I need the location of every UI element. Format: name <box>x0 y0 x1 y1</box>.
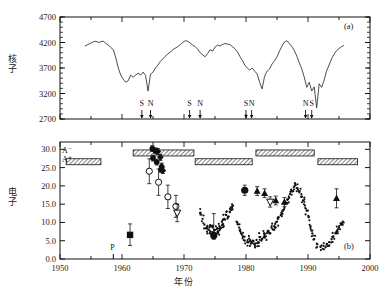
marker-dot-small <box>307 210 309 212</box>
marker-dot-small <box>331 236 333 238</box>
marker-dot-small <box>303 203 305 205</box>
marker-dot-small <box>294 185 296 187</box>
marker-dot-small <box>311 232 313 234</box>
marker-dot-small <box>232 208 234 210</box>
x-tick-label: 1970 <box>164 263 204 273</box>
marker-dot-small <box>273 229 275 231</box>
marker-dot-small <box>277 225 279 227</box>
marker-dot-small <box>288 201 290 203</box>
panel-b-ytick-label: 15.0 <box>22 199 56 209</box>
marker-dot-small <box>229 210 231 212</box>
panel-a-label: (a) <box>344 21 353 31</box>
marker-dot-small <box>299 190 301 192</box>
marker-dot-small <box>246 239 248 241</box>
marker-dot-small <box>226 210 228 212</box>
marker-dot-small <box>271 225 273 227</box>
marker-dot-small <box>222 218 224 220</box>
marker-dot-small <box>288 195 290 197</box>
marker-dot-small <box>316 246 318 248</box>
panel-a-ytick-label: 4200 <box>22 38 56 48</box>
marker-dot-small <box>215 225 217 227</box>
marker-dot-small <box>214 236 216 238</box>
epoch-bar-a-plus <box>195 159 252 165</box>
marker-dot-small <box>330 241 332 243</box>
marker-dot-small <box>201 218 203 220</box>
marker-dot-small <box>213 229 215 231</box>
reversal-marker-label-n: N <box>144 99 158 108</box>
marker-dot-small <box>322 245 324 247</box>
marker-dot-small <box>249 245 251 247</box>
marker-dot-small <box>305 213 307 215</box>
marker-dot-small <box>301 196 303 198</box>
panel-a-ytick-label: 4700 <box>22 12 56 22</box>
x-axis-title: 年份 <box>154 275 214 288</box>
marker-dot-small <box>199 208 201 210</box>
marker-dot-small <box>326 243 328 245</box>
marker-triangle-down-open <box>174 210 181 217</box>
panel-a-frame <box>60 17 370 119</box>
marker-dot-small <box>336 226 338 228</box>
marker-dot-small <box>251 242 253 244</box>
marker-triangle-up-filled <box>261 189 268 196</box>
panel-b-ytick-label: 20.0 <box>22 181 56 191</box>
marker-circle-filled-large <box>241 187 248 194</box>
panel-b-label: (b) <box>344 241 354 251</box>
marker-square-filled <box>127 232 133 238</box>
marker-dot-small <box>320 246 322 248</box>
marker-dot-small <box>239 223 241 225</box>
x-tick-label: 1990 <box>288 263 328 273</box>
marker-dot-small <box>316 243 318 245</box>
marker-dot-small <box>218 223 220 225</box>
reversal-arrow-head <box>140 115 144 119</box>
reversal-arrow-head <box>304 115 308 119</box>
x-tick-label: 1960 <box>102 263 142 273</box>
marker-dot-small <box>258 242 260 244</box>
marker-dot-small <box>236 223 238 225</box>
x-tick-label: 1980 <box>226 263 266 273</box>
x-tick-label: 2000 <box>350 263 386 273</box>
marker-dot-small <box>255 242 257 244</box>
marker-dot-small <box>262 230 264 232</box>
marker-dot-small <box>206 233 208 235</box>
panel-b-ytick-label: 10.0 <box>22 217 56 227</box>
marker-dot-small <box>244 242 246 244</box>
marker-dot-small <box>312 239 314 241</box>
reversal-arrow-head <box>310 115 314 119</box>
reversal-arrow-head <box>250 115 254 119</box>
marker-circle-open <box>155 179 161 185</box>
marker-dot-small <box>248 235 250 237</box>
marker-dot-small <box>325 246 327 248</box>
marker-dot-small <box>264 233 266 235</box>
marker-dot-small <box>224 219 226 221</box>
panel-b-ytick-label: 30.0 <box>22 144 56 154</box>
marker-dot-small <box>265 239 267 241</box>
neutron-monitor-line <box>85 41 344 108</box>
marker-dot-small <box>296 183 298 185</box>
marker-dot-small <box>308 215 310 217</box>
marker-dot-small <box>222 214 224 216</box>
marker-dot-small <box>305 208 307 210</box>
epoch-bar-a-minus <box>133 150 194 156</box>
epoch-bar-a-minus <box>256 150 314 156</box>
figure-root: 核子 电子 年份 (a) (b) A⁻ A⁺ P 270032003700420… <box>0 0 386 303</box>
marker-dot-small <box>254 246 256 248</box>
marker-dot-small <box>333 238 335 240</box>
panel-b-ylabel: 电子 <box>6 187 19 207</box>
marker-dot-small <box>269 232 271 234</box>
marker-dot-small <box>323 242 325 244</box>
marker-dot-small <box>200 214 202 216</box>
marker-dot-small <box>219 228 221 230</box>
reversal-arrow-head <box>149 115 153 119</box>
marker-dot-small <box>311 230 313 232</box>
marker-dot-small <box>258 232 260 234</box>
marker-dot-small <box>291 194 293 196</box>
reversal-arrow-head <box>188 115 192 119</box>
marker-dot-small <box>312 235 314 237</box>
marker-dot-small <box>290 189 292 191</box>
marker-dot-small <box>286 198 288 200</box>
marker-dot-small <box>283 208 285 210</box>
marker-dot-small <box>271 228 273 230</box>
marker-dot-small <box>209 233 211 235</box>
marker-dot-small <box>200 212 202 214</box>
reversal-marker-label-n: N <box>245 99 259 108</box>
